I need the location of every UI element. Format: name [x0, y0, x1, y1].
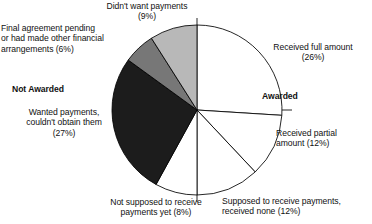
pie-chart-figure: Didn't want payments (9%) Final agreemen… [0, 0, 372, 224]
slice-label-not-supposed-yet: Not supposed to receive payments yet (8%… [94, 197, 218, 218]
slice-label-final-agreement-pending: Final agreement pending or had made othe… [1, 23, 139, 54]
slice-label-received-partial-amount: Received partial amount (12%) [276, 128, 372, 149]
slice-label-didnt-want-payments: Didn't want payments (9%) [88, 1, 206, 22]
pie-slice-received-full-amount [197, 25, 282, 115]
slice-label-supposed-received-none: Supposed to receive payments, received n… [222, 196, 372, 217]
group-heading-awarded: Awarded [262, 91, 362, 101]
slice-label-wanted-payments: Wanted payments, couldn't obtain them (2… [6, 107, 122, 138]
group-heading-not-awarded: Not Awarded [12, 84, 122, 94]
slice-label-received-full-amount: Received full amount (26%) [256, 42, 370, 63]
